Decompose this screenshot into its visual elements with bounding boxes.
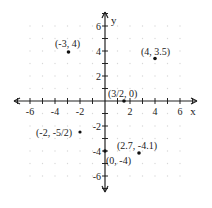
x-tick-label: 6	[178, 106, 183, 117]
y-axis-label: y	[111, 14, 117, 26]
x-tick-label: 2	[128, 106, 133, 117]
point-label: (4, 3.5)	[141, 46, 170, 58]
x-tick-label: 4	[153, 106, 158, 117]
x-tick-label: -6	[26, 106, 34, 117]
data-points: (-3, 4) (4, 3.5) (3/2, 0) (-2, -5/2) (2.…	[36, 38, 170, 167]
y-tick-label: 6	[96, 21, 101, 32]
y-tick-label: -6	[93, 171, 101, 182]
x-tick-label: -4	[51, 106, 59, 117]
y-tick-label: -4	[93, 146, 101, 157]
point-label: (-2, -5/2)	[36, 127, 72, 139]
point-label: (2.7, -4.1)	[117, 140, 157, 152]
y-tick-label: 2	[96, 71, 101, 82]
point-neg3-4	[67, 50, 71, 54]
x-axis-label: x	[190, 105, 196, 117]
point-label: (-3, 4)	[55, 38, 80, 50]
point-label: (3/2, 0)	[108, 88, 137, 100]
point-0-neg4	[103, 149, 107, 153]
coordinate-plane: -6 -4 -2 2 4 6 x 6 4 2 -2 -4 -6 y (-3, 4…	[0, 0, 212, 208]
point-4-3.5	[153, 57, 157, 61]
x-tick-label: -2	[76, 106, 84, 117]
point-label: (0, -4)	[106, 155, 131, 167]
point-1.5-0	[122, 99, 126, 103]
point-neg2-neg2.5	[78, 130, 81, 133]
y-tick-label: -2	[93, 121, 101, 132]
point-2.7-neg4.1	[137, 151, 141, 155]
y-tick-label: 4	[96, 46, 101, 57]
